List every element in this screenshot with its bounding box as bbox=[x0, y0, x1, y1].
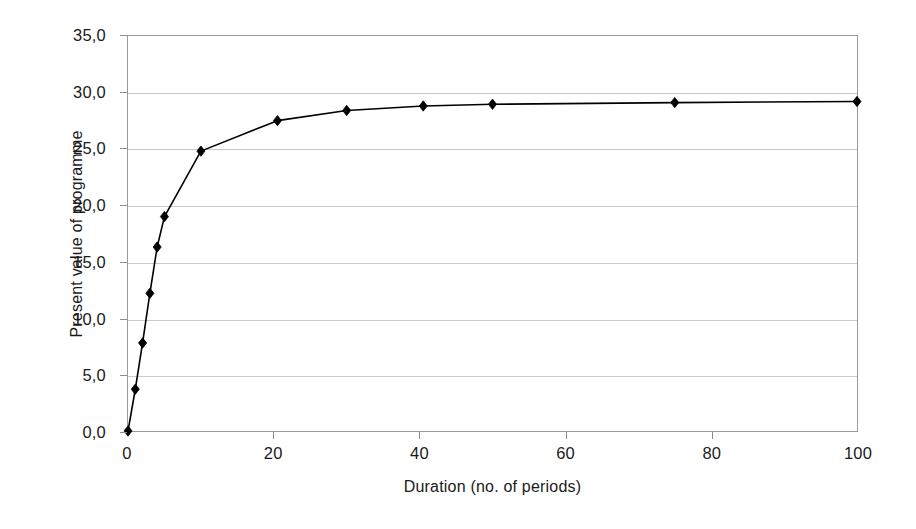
y-axis-title-container: Present value of programme bbox=[22, 35, 62, 432]
data-point-10 bbox=[488, 99, 496, 109]
y-axis-ticks: 0,05,010,015,020,025,030,035,0 bbox=[0, 0, 127, 529]
y-axis-title: Present value of programme bbox=[68, 109, 86, 359]
data-point-1 bbox=[131, 384, 139, 394]
data-series-layer bbox=[128, 36, 857, 431]
y-tick-label-0: 0,0 bbox=[82, 423, 106, 442]
plot-area bbox=[127, 35, 858, 432]
data-point-8 bbox=[343, 105, 351, 115]
y-tick-mark-0 bbox=[120, 432, 127, 433]
series-line bbox=[128, 101, 857, 431]
y-tick-label-7: 35,0 bbox=[73, 26, 106, 45]
data-point-9 bbox=[419, 101, 427, 111]
data-point-11 bbox=[671, 97, 679, 107]
x-tick-mark-4 bbox=[712, 432, 713, 439]
series-markers bbox=[124, 96, 861, 436]
x-tick-mark-2 bbox=[419, 432, 420, 439]
x-axis-title: Duration (no. of periods) bbox=[127, 478, 858, 496]
data-point-3 bbox=[146, 288, 154, 298]
x-tick-mark-3 bbox=[566, 432, 567, 439]
x-tick-label-3: 60 bbox=[556, 444, 575, 463]
x-tick-label-2: 40 bbox=[410, 444, 429, 463]
data-point-7 bbox=[273, 115, 281, 125]
x-tick-label-1: 20 bbox=[264, 444, 283, 463]
x-tick-label-4: 80 bbox=[702, 444, 721, 463]
y-tick-label-6: 30,0 bbox=[73, 82, 106, 101]
y-tick-label-1: 5,0 bbox=[82, 366, 106, 385]
data-point-12 bbox=[853, 96, 861, 106]
y-tick-mark-6 bbox=[120, 92, 127, 93]
y-tick-mark-2 bbox=[120, 319, 127, 320]
y-tick-mark-3 bbox=[120, 262, 127, 263]
y-tick-mark-7 bbox=[120, 35, 127, 36]
chart-figure: 0,05,010,015,020,025,030,035,0 Present v… bbox=[0, 0, 916, 529]
y-tick-mark-5 bbox=[120, 148, 127, 149]
data-point-2 bbox=[139, 338, 147, 348]
data-point-4 bbox=[153, 242, 161, 252]
x-tick-label-0: 0 bbox=[122, 444, 131, 463]
y-tick-mark-4 bbox=[120, 205, 127, 206]
x-tick-label-5: 100 bbox=[844, 444, 872, 463]
x-tick-mark-1 bbox=[273, 432, 274, 439]
y-tick-mark-1 bbox=[120, 375, 127, 376]
